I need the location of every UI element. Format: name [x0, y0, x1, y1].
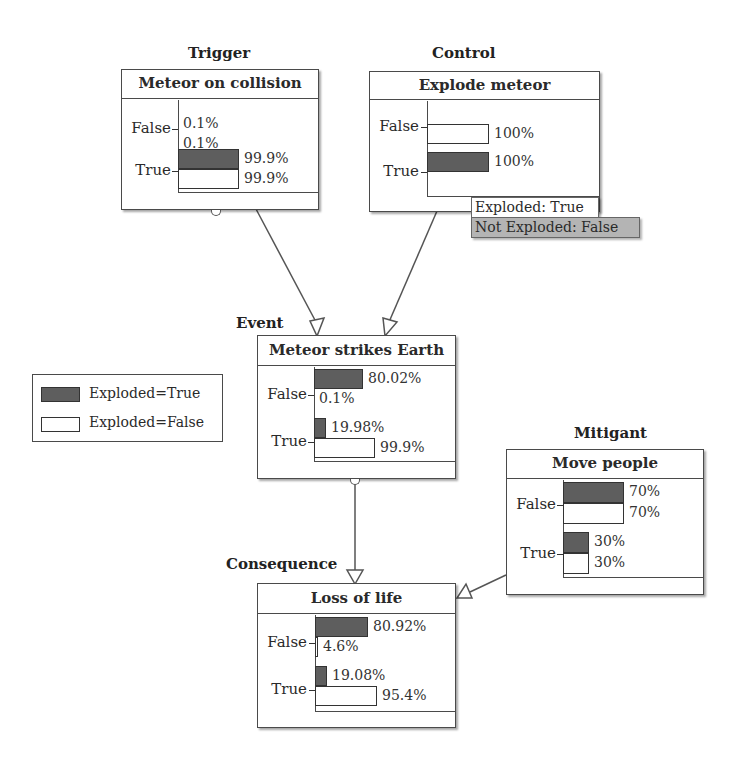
legend-swatch-exploded-true	[41, 387, 80, 402]
legend-swatch-exploded-false	[41, 417, 80, 432]
role-label-mitigant: Mitigant	[574, 424, 647, 442]
edge-event-to-consequence	[347, 480, 363, 584]
state-label-false: False	[379, 117, 419, 135]
arrowhead-icon	[383, 318, 397, 336]
value-true-exploded-true: 19.08%	[332, 667, 385, 683]
node-loss-of-life[interactable]: Loss of life False80.92%4.6%True19.08%95…	[257, 583, 456, 728]
bar-true-exploded-true	[563, 532, 589, 553]
role-label-control: Control	[432, 44, 495, 62]
value-false-exploded-false: 4.6%	[323, 638, 359, 654]
axis-tick	[308, 395, 314, 396]
node-explode-meteor[interactable]: Explode meteor False100%True100%	[369, 71, 600, 212]
bar-true-exploded-false	[314, 438, 375, 458]
bar-false-exploded-false	[563, 503, 624, 524]
arrowhead-icon	[310, 318, 324, 336]
value-false-exploded-true: 0.1%	[183, 115, 219, 131]
scenario-label-exploded-true[interactable]: Exploded: True	[471, 197, 599, 218]
node-title: Meteor on collision	[122, 70, 318, 99]
connector-knob-icon	[350, 479, 360, 485]
arrowhead-icon	[347, 570, 363, 584]
value-false-exploded-false: 70%	[629, 504, 660, 520]
monitor-plot-area	[427, 101, 599, 197]
value-false-exploded-false: 0.1%	[319, 390, 355, 406]
value-true: 100%	[494, 153, 534, 169]
bar-true-exploded-false	[563, 553, 589, 574]
state-label-false: False	[131, 119, 171, 137]
value-true-exploded-true: 99.9%	[244, 150, 288, 166]
state-label-true: True	[383, 162, 419, 180]
value-false-exploded-true: 70%	[629, 483, 660, 499]
state-label-true: True	[135, 161, 171, 179]
node-meteor-on-collision[interactable]: Meteor on collision False0.1%0.1%True99.…	[121, 69, 319, 210]
bar-false-exploded-true	[314, 369, 363, 389]
bar-true-exploded-false	[178, 169, 239, 189]
state-label-false: False	[516, 495, 556, 513]
node-move-people[interactable]: Move people False70%70%True30%30%	[506, 449, 704, 595]
bar-false-exploded-true	[563, 482, 624, 503]
node-title: Loss of life	[258, 584, 455, 614]
edge-control-to-event	[383, 211, 437, 336]
node-title: Meteor strikes Earth	[258, 336, 455, 366]
bar-false	[427, 124, 489, 144]
node-title: Explode meteor	[370, 72, 599, 100]
value-true-exploded-false: 99.9%	[244, 170, 288, 186]
value-false-exploded-true: 80.02%	[368, 370, 421, 386]
value-true-exploded-false: 95.4%	[382, 687, 426, 703]
value-true-exploded-false: 30%	[594, 554, 625, 570]
value-false: 100%	[494, 125, 534, 141]
role-label-trigger: Trigger	[188, 44, 250, 62]
state-label-true: True	[271, 432, 307, 450]
connector-knob-icon	[211, 210, 221, 216]
bar-false-exploded-false	[315, 637, 318, 657]
scenario-label-not-exploded-false[interactable]: Not Exploded: False	[471, 217, 640, 238]
axis-tick	[172, 129, 178, 130]
role-label-consequence: Consequence	[226, 555, 337, 573]
legend-label-exploded-false: Exploded=False	[89, 414, 204, 430]
arrowhead-icon	[457, 584, 472, 598]
bar-true-exploded-false	[315, 686, 377, 706]
bar-false-exploded-true	[315, 617, 368, 637]
value-true-exploded-false: 99.9%	[380, 439, 424, 455]
state-label-false: False	[267, 385, 307, 403]
legend: Exploded=True Exploded=False	[32, 374, 223, 442]
bar-true-exploded-true	[314, 418, 326, 438]
state-label-true: True	[520, 544, 556, 562]
role-label-event: Event	[236, 314, 284, 332]
value-false-exploded-true: 80.92%	[373, 618, 426, 634]
value-true-exploded-true: 30%	[594, 533, 625, 549]
bar-true-exploded-true	[315, 666, 327, 686]
state-label-false: False	[267, 633, 307, 651]
bar-true	[427, 152, 489, 172]
axis-tick	[421, 172, 427, 173]
edge-mitigant-to-consequence	[457, 575, 506, 598]
bar-true-exploded-true	[178, 149, 239, 169]
node-meteor-strikes-earth[interactable]: Meteor strikes Earth False80.02%0.1%True…	[257, 335, 456, 479]
node-title: Move people	[507, 450, 703, 479]
legend-label-exploded-true: Exploded=True	[89, 385, 200, 401]
state-label-true: True	[271, 680, 307, 698]
value-true-exploded-true: 19.98%	[331, 419, 384, 435]
